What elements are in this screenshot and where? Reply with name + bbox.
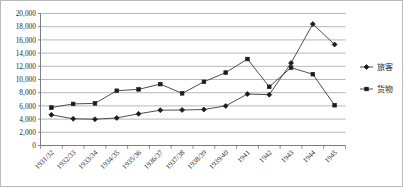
x-axis-tick-label: 1939/40 (208, 148, 231, 171)
x-axis-tick-label: 1944 (301, 148, 317, 164)
plot-area-wrapper: 02,0004,0006,0008,00010,00012,00014,0001… (0, 0, 404, 188)
y-axis-tick-label: 18,000 (16, 22, 37, 31)
data-point-marker (92, 117, 97, 122)
data-point-marker (93, 102, 97, 106)
data-point-marker (71, 116, 76, 121)
x-axis-tick-label: 1938/39 (186, 148, 209, 171)
data-point-marker (114, 115, 119, 120)
data-point-marker (201, 107, 206, 112)
chart-legend: 旅客货物 (360, 62, 393, 94)
data-point-marker (202, 80, 206, 84)
data-point-marker (267, 85, 271, 89)
data-point-marker (159, 82, 163, 86)
y-axis-tick-label: 2,000 (19, 128, 36, 137)
data-point-marker (50, 106, 54, 110)
y-axis-tick-labels: 02,0004,0006,0008,00010,00012,00014,0001… (16, 9, 37, 150)
data-point-marker (158, 108, 163, 113)
legend-label: 货物 (377, 84, 393, 94)
y-axis-tick-label: 16,000 (16, 36, 37, 45)
x-axis-tick-label: 1932/33 (55, 148, 78, 171)
x-axis-tick-label: 1936/37 (142, 148, 165, 171)
data-point-marker (137, 88, 141, 92)
x-axis-tick-label: 1941 (236, 148, 252, 164)
y-axis-tick-label: 12,000 (16, 62, 37, 71)
data-point-marker (289, 66, 293, 70)
data-point-marker (136, 111, 141, 116)
legend-label: 旅客 (377, 62, 393, 72)
data-point-marker (333, 103, 337, 107)
y-axis-tick-label: 6,000 (19, 102, 36, 111)
x-axis-tick-label: 1933/34 (77, 148, 100, 171)
y-axis-tick-label: 10,000 (16, 75, 37, 84)
x-axis-tick-labels: 1931/321932/331933/341934/351935/361936/… (33, 148, 339, 171)
data-point-marker (246, 57, 250, 61)
series-markers-group (49, 22, 337, 122)
y-axis-tick-label: 14,000 (16, 49, 37, 58)
data-point-marker (289, 61, 294, 66)
chart-container: 02,0004,0006,0008,00010,00012,00014,0001… (0, 0, 404, 188)
line-chart: 02,0004,0006,0008,00010,00012,00014,0001… (0, 0, 404, 188)
data-point-marker (223, 103, 228, 108)
data-point-marker (311, 72, 315, 76)
x-axis-tick-label: 1943 (280, 148, 296, 164)
legend-sample-marker (365, 87, 369, 91)
x-axis-tickmarks (41, 146, 346, 149)
data-point-marker (245, 92, 250, 97)
x-axis-tick-label: 1945 (323, 148, 339, 164)
y-axis-tick-label: 4,000 (19, 115, 36, 124)
y-axis-tick-label: 0 (32, 141, 36, 150)
data-point-marker (71, 102, 75, 106)
data-point-marker (49, 112, 54, 117)
x-axis-tick-label: 1934/35 (99, 148, 122, 171)
data-point-marker (180, 107, 185, 112)
data-point-marker (180, 92, 184, 96)
y-axis-tick-label: 20,000 (16, 9, 37, 18)
legend-sample-marker (364, 65, 369, 70)
data-point-marker (224, 71, 228, 75)
gridlines-group (38, 14, 346, 146)
y-axis-tick-label: 8,000 (19, 88, 36, 97)
x-axis-tick-label: 1931/32 (33, 148, 56, 171)
x-axis-tick-label: 1935/36 (121, 148, 144, 171)
data-point-marker (115, 89, 119, 93)
x-axis-tick-label: 1942 (258, 148, 274, 164)
x-axis-tick-label: 1937/38 (164, 148, 187, 171)
